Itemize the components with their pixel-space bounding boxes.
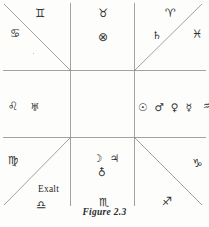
pisces-icon: ♓: [192, 29, 202, 41]
capricorn-icon: ♑: [192, 158, 202, 170]
cell-bottom-right-inner: ♐: [162, 196, 172, 208]
cell-bottom-center-planets: ☽ ♃: [93, 153, 119, 164]
part-of-fortune-icon: ⊗: [98, 31, 108, 43]
cell-top-left-inner: ♊: [35, 8, 45, 20]
figure-caption: Figure 2.3: [0, 207, 209, 217]
cancer-icon: ♋: [10, 28, 20, 40]
aquarius-icon: ♒: [203, 101, 209, 113]
moon-icon: ☽: [93, 153, 102, 164]
cell-top-right-inner-sign: ♈: [165, 8, 175, 20]
sun-icon: ☉: [138, 102, 147, 113]
jupiter-icon: ♃: [109, 153, 118, 164]
leo-icon: ♌: [8, 101, 18, 113]
sagittarius-icon: ♐: [162, 196, 172, 208]
mars-icon: ♂: [154, 102, 163, 113]
cell-top-right-inner-planet: ♄: [152, 30, 161, 41]
gemini-icon: ♊: [35, 8, 45, 20]
cell-top-left-outer: ♋: [10, 28, 20, 40]
cell-middle-right: ☉ ♂ ♀ ☿ ♒: [138, 101, 209, 113]
diagonal-bottom-left: [4, 138, 71, 206]
aries-icon: ♈: [165, 8, 175, 20]
cell-exalt-label: Exalt: [38, 185, 59, 195]
virgo-icon: ♍: [8, 155, 18, 167]
saturn-icon: ♄: [152, 30, 161, 41]
pluto-icon: ♁: [98, 167, 106, 178]
cell-bottom-right-outer: ♑: [192, 158, 202, 170]
cell-top-center-sign: ♉: [98, 8, 108, 20]
cell-bottom-left-outer: ♍: [8, 155, 18, 167]
paper-speck: [33, 53, 34, 54]
astrological-chart-figure: ♋ ♊ ♉ ⊗ ♈ ♄ ♓ ♌ ♅ ☉ ♂ ♀ ☿ ♒ ♍ Ex: [0, 0, 209, 227]
cell-top-center-point: ⊗: [98, 31, 108, 43]
venus-icon: ♀: [171, 102, 179, 113]
cell-bottom-center-pluto: ♁: [98, 167, 106, 178]
taurus-icon: ♉: [98, 8, 108, 20]
mercury-icon: ☿: [186, 102, 192, 113]
uranus-icon: ♅: [30, 102, 39, 113]
exalt-label: Exalt: [38, 185, 59, 195]
cell-top-right-outer: ♓: [192, 29, 202, 41]
cell-middle-left: ♌ ♅: [8, 101, 40, 113]
